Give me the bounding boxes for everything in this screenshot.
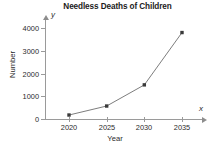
- data-point-marker: [67, 113, 70, 116]
- series-markers: [67, 31, 183, 117]
- chart-figure: Needless Deaths of Children y x 0 1000 2…: [0, 0, 213, 150]
- plot-area: [0, 0, 213, 150]
- data-point-marker: [143, 83, 146, 86]
- series-line: [69, 33, 182, 115]
- data-point-marker: [180, 31, 183, 34]
- data-point-marker: [105, 104, 108, 107]
